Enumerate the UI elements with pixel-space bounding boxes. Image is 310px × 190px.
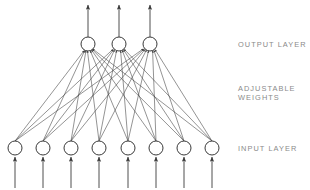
- input-node: [64, 141, 78, 155]
- adjustable-weights-line-1: ADJUSTABLE: [238, 84, 296, 93]
- input-node: [205, 141, 219, 155]
- input-node: [36, 141, 50, 155]
- input-layer-label: INPUT LAYER: [238, 144, 297, 153]
- input-node: [177, 141, 191, 155]
- output-arrows: [88, 5, 150, 37]
- adjustable-weights-line-2: WEIGHTS: [238, 93, 280, 102]
- input-layer-nodes: [8, 141, 219, 155]
- input-node: [149, 141, 163, 155]
- neural-network-diagram: OUTPUT LAYER ADJUSTABLEWEIGHTS INPUT LAY…: [0, 0, 310, 190]
- input-node: [92, 141, 106, 155]
- adjustable-weights-label: ADJUSTABLEWEIGHTS: [238, 84, 296, 102]
- output-layer-label: OUTPUT LAYER: [238, 40, 307, 49]
- output-node: [143, 37, 157, 51]
- input-node: [121, 141, 135, 155]
- input-node: [8, 141, 22, 155]
- weight-connections: [15, 49, 212, 141]
- input-arrows: [15, 157, 212, 188]
- output-node: [112, 37, 126, 51]
- output-node: [81, 37, 95, 51]
- output-layer-nodes: [81, 37, 157, 51]
